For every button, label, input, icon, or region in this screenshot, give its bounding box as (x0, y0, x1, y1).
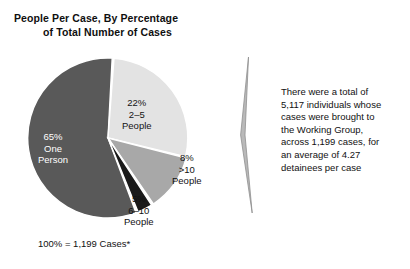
pointer-arrow-icon (232, 52, 262, 220)
pie-label-over-ten-line2: >10 (172, 164, 202, 176)
chart-title-line-2: of Total Number of Cases (14, 26, 229, 40)
pie-label-six-to-ten-line3: People (124, 216, 154, 228)
pie-chart-figure: People Per Case, By Percentage of Total … (0, 0, 410, 269)
annotation-line-3: cases were brought to (281, 111, 405, 124)
annotation-line-6: an average of 4.27 (281, 149, 405, 162)
annotation-line-2: 5,117 individuals whose (281, 99, 405, 112)
pie-label-over-ten-percent: 8% (172, 152, 202, 164)
pie-label-six-to-ten-percent: 5% (124, 193, 154, 205)
pie-label-six-to-ten-line2: 6–10 (124, 205, 154, 217)
pie-label-over-ten-line3: People (172, 175, 202, 187)
pie-svg (28, 58, 188, 218)
chart-title-line-1: People Per Case, By Percentage (14, 12, 229, 26)
pie-label-six-to-ten: 5% 6–10 People (124, 193, 154, 228)
chart-title: People Per Case, By Percentage of Total … (14, 12, 229, 39)
pie-graphic (28, 58, 188, 218)
pie-label-over-ten: 8% >10 People (172, 152, 202, 187)
annotation-line-7: detainees per case (281, 162, 405, 175)
chart-footnote: 100% = 1,199 Cases* (38, 238, 130, 249)
annotation-text: There were a total of 5,117 individuals … (281, 86, 405, 174)
annotation-line-1: There were a total of (281, 86, 405, 99)
annotation-line-5: across 1,199 cases, for (281, 136, 405, 149)
annotation-line-4: the Working Group, (281, 124, 405, 137)
pointer-arrow-shape (241, 57, 253, 213)
pointer-arrow-svg (232, 52, 262, 220)
